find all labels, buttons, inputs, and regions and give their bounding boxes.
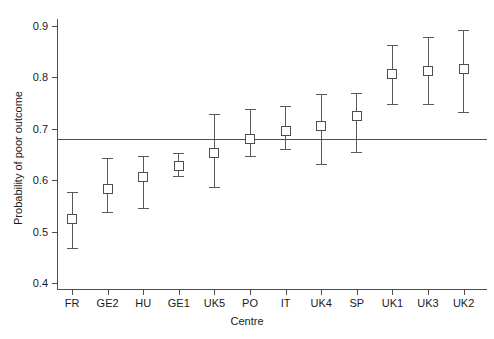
estimate-marker — [174, 161, 184, 171]
errorbar-cap-upper — [245, 109, 256, 110]
x-tick-label-fr: FR — [65, 297, 80, 309]
x-tick-mark — [72, 290, 73, 295]
x-tick-mark — [357, 290, 358, 295]
errorbar-cap-upper — [67, 192, 78, 193]
errorbar-cap-lower — [245, 156, 256, 157]
estimate-marker — [352, 111, 362, 121]
estimate-marker — [281, 126, 291, 136]
errorbar-cap-upper — [280, 106, 291, 107]
x-tick-label-uk2: UK2 — [453, 297, 474, 309]
y-tick-label: 0.5 — [33, 226, 48, 238]
x-axis-title: Centre — [0, 315, 494, 327]
errorbar-cap-lower — [67, 248, 78, 249]
y-tick-mark — [52, 129, 57, 130]
errorbar-cap-lower — [209, 187, 220, 188]
errorbar-cap-upper — [173, 153, 184, 154]
x-tick-label-uk3: UK3 — [417, 297, 438, 309]
x-tick-label-uk5: UK5 — [204, 297, 225, 309]
x-tick-label-ge1: GE1 — [168, 297, 190, 309]
errorbar-cap-upper — [209, 114, 220, 115]
x-tick-label-ge2: GE2 — [97, 297, 119, 309]
errorbar-cap-lower — [138, 208, 149, 209]
estimate-marker — [387, 69, 397, 79]
y-axis-title: Probability of poor outcome — [12, 68, 24, 248]
estimate-marker — [423, 66, 433, 76]
x-tick-label-hu: HU — [135, 297, 151, 309]
x-tick-mark — [464, 290, 465, 295]
estimate-marker — [138, 172, 148, 182]
errorbar-cap-upper — [102, 158, 113, 159]
x-tick-mark — [143, 290, 144, 295]
errorbar-cap-upper — [458, 30, 469, 31]
x-tick-label-po: PO — [242, 297, 258, 309]
errorbar-cap-lower — [280, 149, 291, 150]
x-tick-mark — [392, 290, 393, 295]
y-tick-label-wrap: 0.5 — [0, 232, 48, 233]
x-tick-mark — [286, 290, 287, 295]
y-tick-label: 0.8 — [33, 71, 48, 83]
estimate-marker — [67, 214, 77, 224]
errorbar-cap-upper — [351, 93, 362, 94]
y-tick-mark — [52, 232, 57, 233]
y-tick-label-wrap: 0.8 — [0, 77, 48, 78]
errorbar-cap-upper — [316, 94, 327, 95]
y-tick-mark — [52, 26, 57, 27]
chart-figure: 0.90.80.70.60.50.4 FRGE2HUGE1UK5POITUK4S… — [0, 0, 494, 339]
y-tick-label-wrap: 0.7 — [0, 129, 48, 130]
errorbar-cap-lower — [351, 152, 362, 153]
x-tick-label-it: IT — [281, 297, 291, 309]
y-tick-mark — [52, 283, 57, 284]
x-tick-mark — [250, 290, 251, 295]
errorbar-cap-lower — [102, 212, 113, 213]
estimate-marker — [103, 184, 113, 194]
errorbar-cap-lower — [387, 104, 398, 105]
x-tick-mark — [428, 290, 429, 295]
x-tick-mark — [179, 290, 180, 295]
x-tick-mark — [214, 290, 215, 295]
errorbar-cap-upper — [138, 156, 149, 157]
errorbar-cap-lower — [316, 164, 327, 165]
errorbar-cap-upper — [423, 37, 434, 38]
x-tick-label-uk1: UK1 — [382, 297, 403, 309]
y-tick-mark — [52, 77, 57, 78]
x-tick-mark — [321, 290, 322, 295]
errorbar-cap-upper — [387, 45, 398, 46]
y-tick-label-wrap: 0.9 — [0, 26, 48, 27]
y-tick-mark — [52, 180, 57, 181]
estimate-marker — [459, 64, 469, 74]
errorbar-cap-lower — [458, 112, 469, 113]
y-tick-label: 0.4 — [33, 277, 48, 289]
y-tick-label-wrap: 0.6 — [0, 180, 48, 181]
reference-line — [58, 139, 487, 140]
errorbar-cap-lower — [173, 176, 184, 177]
x-tick-label-uk4: UK4 — [310, 297, 331, 309]
x-axis-line — [57, 289, 487, 290]
y-tick-label-wrap: 0.4 — [0, 283, 48, 284]
errorbar-whisker — [356, 93, 357, 152]
x-tick-label-sp: SP — [349, 297, 364, 309]
estimate-marker — [245, 134, 255, 144]
errorbar-cap-lower — [423, 104, 434, 105]
y-tick-label: 0.7 — [33, 123, 48, 135]
estimate-marker — [316, 121, 326, 131]
y-tick-label: 0.6 — [33, 174, 48, 186]
x-tick-mark — [108, 290, 109, 295]
y-tick-label: 0.9 — [33, 20, 48, 32]
y-axis-line — [57, 19, 58, 290]
estimate-marker — [209, 148, 219, 158]
